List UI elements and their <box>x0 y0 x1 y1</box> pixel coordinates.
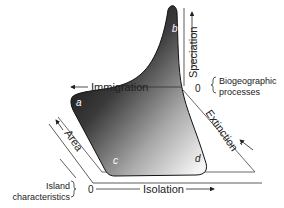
processes-label: processes <box>219 87 261 97</box>
origin-top-label: 0 <box>195 83 201 94</box>
island-label: Island <box>46 181 70 191</box>
biogeographic-processes-group: Biogeographic processes <box>211 76 277 97</box>
speciation-axis: Speciation <box>184 8 199 86</box>
characteristics-label: characteristics <box>12 192 70 202</box>
origin-bottom-label: 0 <box>88 184 94 195</box>
immigration-label: Immigration <box>91 81 148 93</box>
point-b-label: b <box>172 23 178 34</box>
biogeographic-label: Biogeographic <box>219 76 277 86</box>
island-characteristics-group: Island characteristics <box>12 181 76 202</box>
point-a-label: a <box>76 97 82 108</box>
area-axis: Area <box>56 120 86 178</box>
point-d-label: d <box>195 153 201 164</box>
extinction-axis: Extinction <box>203 107 253 153</box>
isolation-label: Isolation <box>143 183 184 195</box>
speciation-label: Speciation <box>187 27 199 78</box>
extinction-label: Extinction <box>203 107 240 153</box>
island-biogeography-diagram: a b c d Speciation Immigration 0 Biogeog… <box>0 0 284 208</box>
area-label: Area <box>62 127 86 154</box>
point-c-label: c <box>113 155 118 166</box>
isolation-axis: Isolation <box>96 183 214 195</box>
